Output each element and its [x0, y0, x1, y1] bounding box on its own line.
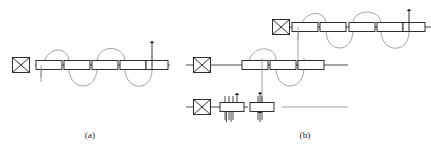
figure-root: (a) (b): [0, 0, 431, 163]
caption-panel-a: (a): [0, 130, 180, 140]
panel-b: [186, 10, 431, 122]
panel-b-row-top: [272, 10, 431, 48]
panel-b-top-guide-boxes: [292, 23, 425, 32]
crossed-box-symbol: [13, 58, 30, 73]
crossed-box-symbol: [273, 20, 290, 35]
panel-a-guide-boxes: [36, 61, 168, 70]
panel-a: [13, 42, 171, 86]
panel-b-middle-guide-boxes: [242, 61, 324, 70]
panel-b-row-middle: [186, 49, 348, 86]
crossed-box-symbol: [194, 58, 211, 73]
caption-panel-b: (b): [225, 130, 385, 140]
crossed-box-symbol: [194, 100, 211, 115]
panel-b-row-bottom: [186, 93, 348, 122]
